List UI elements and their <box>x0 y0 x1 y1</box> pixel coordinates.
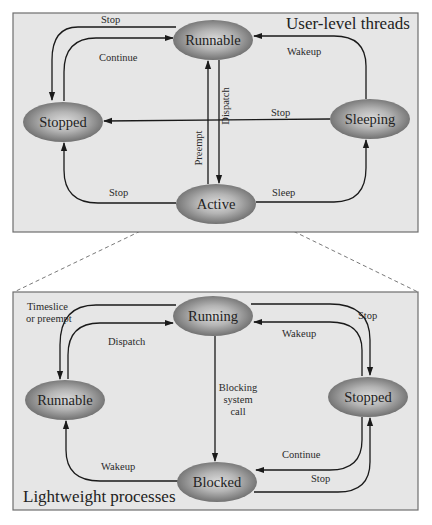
edge-label: Stop <box>101 14 120 25</box>
edge-label: Sleep <box>272 187 295 198</box>
edge-label: system <box>223 394 252 405</box>
state-label: Sleeping <box>345 111 396 127</box>
state-running: Running <box>173 296 253 336</box>
state-label: Runnable <box>37 392 93 408</box>
state-runnable: Runnable <box>25 380 105 420</box>
state-label: Runnable <box>185 32 241 48</box>
edge-label: Stop <box>311 473 330 484</box>
edge-label: Stop <box>271 107 290 118</box>
state-label: Stopped <box>39 114 87 130</box>
edge-label: Wakeup <box>101 461 135 472</box>
panel-title: User-level threads <box>286 14 410 33</box>
state-label: Blocked <box>193 474 242 490</box>
edge-label: Wakeup <box>282 328 316 339</box>
state-stopped: Stopped <box>23 102 103 142</box>
edge-label: Continue <box>282 449 321 460</box>
state-label: Running <box>188 308 238 324</box>
panel-title: Lightweight processes <box>23 487 176 506</box>
thread-state-diagram: User-level threads Stop Continue Wakeup … <box>0 0 432 525</box>
edge-label: Dispatch <box>108 336 146 347</box>
state-sleeping: Sleeping <box>330 99 410 139</box>
state-active: Active <box>176 184 256 224</box>
lightweight-processes-panel: Lightweight processes Timeslice or preem… <box>13 292 418 510</box>
edge-label: Stop <box>358 310 377 321</box>
edge-label: Timeslice <box>27 301 68 312</box>
state-label: Active <box>197 196 236 212</box>
edge-label: Wakeup <box>287 46 321 57</box>
state-label: Stopped <box>344 389 392 405</box>
edge-label: Preempt <box>193 130 204 165</box>
state-stopped: Stopped <box>328 377 408 417</box>
state-runnable: Runnable <box>173 20 253 60</box>
edge-label: Continue <box>99 52 138 63</box>
edge-label: Dispatch <box>220 87 231 125</box>
state-blocked: Blocked <box>177 462 257 502</box>
edge-label: Blocking <box>219 382 258 393</box>
user-level-threads-panel: User-level threads Stop Continue Wakeup … <box>13 13 418 232</box>
edge-label: Stop <box>109 187 128 198</box>
edge-label: call <box>230 406 245 417</box>
edge-label: or preempt <box>26 313 72 324</box>
